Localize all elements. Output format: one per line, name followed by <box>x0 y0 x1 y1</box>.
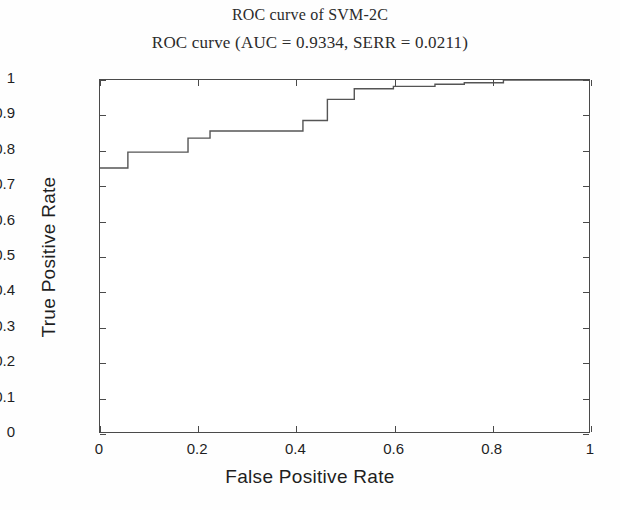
y-axis-title: True Positive Rate <box>38 107 60 407</box>
y-axis-tick <box>583 80 589 81</box>
roc-curve-line <box>100 80 589 168</box>
y-axis-tick <box>100 434 106 435</box>
x-axis-tick <box>100 80 101 86</box>
y-axis-tick-label: 0.6 <box>0 211 15 228</box>
y-axis-tick <box>100 115 106 116</box>
y-axis-tick-label: 0.7 <box>0 175 15 192</box>
y-axis-tick <box>583 151 589 152</box>
x-axis-tick <box>198 80 199 86</box>
plot-area <box>99 79 590 433</box>
y-axis-tick-label: 1 <box>0 69 15 86</box>
chart-title-block: ROC curve of SVM-2C ROC curve (AUC = 0.9… <box>0 6 620 53</box>
y-axis-tick-label: 0.8 <box>0 140 15 157</box>
x-axis-tick <box>395 80 396 86</box>
x-axis-tick <box>591 80 592 86</box>
y-axis-tick-label: 0.1 <box>0 388 15 405</box>
roc-curve-svg <box>100 80 589 432</box>
x-axis-tick <box>493 426 494 432</box>
chart-subtitle: ROC curve (AUC = 0.9334, SERR = 0.0211) <box>0 33 620 53</box>
x-axis-tick-label: 1 <box>560 440 620 457</box>
x-axis-tick-label: 0 <box>69 440 129 457</box>
y-axis-tick <box>100 186 106 187</box>
x-axis-title: False Positive Rate <box>0 466 620 488</box>
y-axis-tick-label: 0.9 <box>0 104 15 121</box>
y-axis-tick-label: 0.4 <box>0 281 15 298</box>
x-axis-tick <box>198 426 199 432</box>
y-axis-tick <box>100 363 106 364</box>
y-axis-tick <box>583 399 589 400</box>
x-axis-tick <box>296 426 297 432</box>
roc-chart-figure: ROC curve of SVM-2C ROC curve (AUC = 0.9… <box>0 0 620 510</box>
x-axis-tick <box>493 80 494 86</box>
x-axis-tick <box>395 426 396 432</box>
y-axis-tick <box>100 399 106 400</box>
y-axis-tick <box>100 328 106 329</box>
y-axis-tick <box>583 363 589 364</box>
x-axis-tick <box>100 426 101 432</box>
y-axis-tick <box>583 257 589 258</box>
x-axis-tick-label: 0.4 <box>265 440 325 457</box>
x-axis-tick-label: 0.6 <box>364 440 424 457</box>
y-axis-tick <box>583 222 589 223</box>
y-axis-tick <box>583 115 589 116</box>
x-axis-tick <box>296 80 297 86</box>
y-axis-tick-label: 0.2 <box>0 352 15 369</box>
y-axis-tick <box>583 434 589 435</box>
x-axis-tick-label: 0.2 <box>167 440 227 457</box>
x-axis-tick-label: 0.8 <box>462 440 522 457</box>
chart-title: ROC curve of SVM-2C <box>0 6 620 24</box>
y-axis-tick <box>583 186 589 187</box>
x-axis-tick <box>591 426 592 432</box>
y-axis-tick <box>583 328 589 329</box>
y-axis-tick <box>100 257 106 258</box>
y-axis-tick <box>100 151 106 152</box>
y-axis-tick <box>100 292 106 293</box>
y-axis-tick-label: 0.5 <box>0 246 15 263</box>
y-axis-tick <box>100 222 106 223</box>
y-axis-tick <box>583 292 589 293</box>
y-axis-tick-label: 0 <box>0 423 15 440</box>
y-axis-tick-label: 0.3 <box>0 317 15 334</box>
